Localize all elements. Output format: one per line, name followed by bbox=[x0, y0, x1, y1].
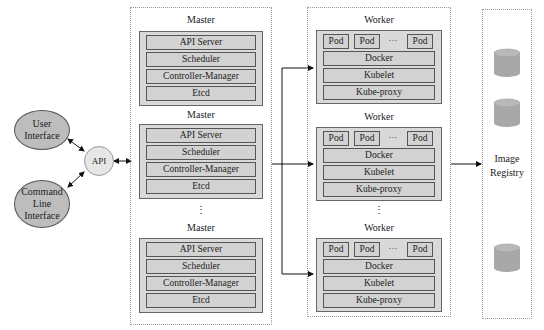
worker-group: Pod Pod ··· Pod Docker Kubelet Kube-prox… bbox=[316, 238, 442, 312]
master-component: Scheduler bbox=[146, 259, 256, 274]
master-component: Controller-Manager bbox=[146, 276, 256, 291]
master-component: API Server bbox=[146, 242, 256, 257]
master-group: API Server Scheduler Controller-Manager … bbox=[139, 31, 263, 106]
pod: Pod bbox=[323, 242, 349, 257]
registry-label-line1: Image bbox=[482, 152, 532, 166]
master-component: Scheduler bbox=[146, 52, 256, 67]
worker-component: Docker bbox=[323, 51, 435, 66]
pod: Pod bbox=[323, 34, 349, 49]
user-interface-label: User Interface bbox=[24, 118, 60, 142]
cli-label: Command Line Interface bbox=[21, 186, 63, 222]
vertical-ellipsis: ⋮ bbox=[307, 208, 451, 212]
master-component: API Server bbox=[146, 35, 256, 50]
database-icon bbox=[493, 243, 521, 273]
worker-component: Docker bbox=[323, 148, 435, 163]
worker-title: Worker bbox=[307, 222, 451, 233]
worker-component: Kube-proxy bbox=[323, 182, 435, 197]
cli-node: Command Line Interface bbox=[14, 180, 70, 228]
master-component: Etcd bbox=[146, 179, 256, 194]
worker-component: Kubelet bbox=[323, 68, 435, 83]
worker-group: Pod Pod ··· Pod Docker Kubelet Kube-prox… bbox=[316, 127, 442, 201]
master-component: Controller-Manager bbox=[146, 162, 256, 177]
registry-label-line2: Registry bbox=[482, 166, 532, 180]
pod-ellipsis: ··· bbox=[383, 35, 403, 45]
registry-label: Image Registry bbox=[482, 152, 532, 180]
master-component: API Server bbox=[146, 128, 256, 143]
pod: Pod bbox=[323, 131, 349, 146]
pod: Pod bbox=[354, 131, 380, 146]
pod: Pod bbox=[407, 34, 433, 49]
worker-title: Worker bbox=[307, 14, 451, 25]
api-node: API bbox=[84, 146, 114, 176]
connector-lines bbox=[0, 0, 544, 330]
pod-ellipsis: ··· bbox=[383, 243, 403, 253]
master-component: Scheduler bbox=[146, 145, 256, 160]
worker-component: Kubelet bbox=[323, 165, 435, 180]
vertical-ellipsis: ⋮ bbox=[130, 208, 272, 212]
user-interface-node: User Interface bbox=[14, 110, 70, 150]
worker-component: Kubelet bbox=[323, 276, 435, 291]
pod: Pod bbox=[354, 34, 380, 49]
pod: Pod bbox=[354, 242, 380, 257]
master-component: Etcd bbox=[146, 293, 256, 308]
master-group: API Server Scheduler Controller-Manager … bbox=[139, 124, 263, 199]
master-title: Master bbox=[130, 109, 272, 120]
worker-title: Worker bbox=[307, 111, 451, 122]
master-title: Master bbox=[130, 222, 272, 233]
master-group: API Server Scheduler Controller-Manager … bbox=[139, 238, 263, 313]
master-component: Etcd bbox=[146, 86, 256, 101]
pod: Pod bbox=[407, 242, 433, 257]
worker-group: Pod Pod ··· Pod Docker Kubelet Kube-prox… bbox=[316, 30, 442, 104]
master-component: Controller-Manager bbox=[146, 69, 256, 84]
worker-component: Docker bbox=[323, 259, 435, 274]
database-icon bbox=[493, 48, 521, 78]
master-title: Master bbox=[130, 14, 272, 25]
pod-ellipsis: ··· bbox=[383, 132, 403, 142]
worker-component: Kube-proxy bbox=[323, 85, 435, 100]
api-label: API bbox=[92, 155, 107, 167]
pod: Pod bbox=[407, 131, 433, 146]
database-icon bbox=[493, 98, 521, 128]
worker-component: Kube-proxy bbox=[323, 293, 435, 308]
